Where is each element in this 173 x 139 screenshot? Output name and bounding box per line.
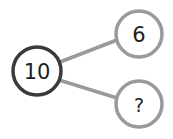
connector-whole-to-part1	[60, 40, 117, 62]
part-circle-1: 6	[116, 11, 162, 57]
whole-label: 10	[24, 60, 51, 84]
part1-label: 6	[132, 23, 145, 47]
part-circle-2: ?	[116, 81, 162, 127]
number-bond-diagram: 10 6 ?	[0, 0, 173, 139]
whole-circle: 10	[13, 47, 61, 95]
part2-label: ?	[134, 94, 144, 116]
connector-whole-to-part2	[59, 80, 117, 98]
